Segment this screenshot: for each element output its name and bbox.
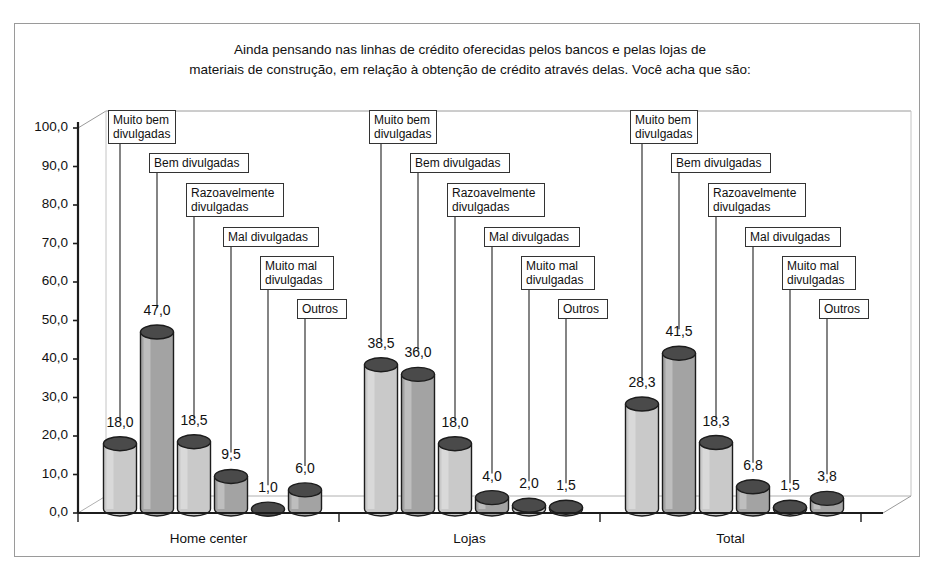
bar-value-label: 1,0	[258, 479, 277, 495]
bar-value-label: 18,0	[441, 414, 468, 430]
bar-total-s0	[626, 397, 659, 516]
y-axis-tick-label: 20,0	[6, 427, 68, 442]
callout-label-mal-divulgadas: Mal divulgadas	[745, 227, 841, 247]
bar-total-s2	[700, 436, 733, 516]
bar-home-center-s3	[215, 469, 248, 516]
bar-cap	[178, 435, 211, 449]
bar-highlight	[368, 368, 375, 509]
bar-value-label: 2,0	[519, 475, 538, 491]
y-axis-tick-label: 80,0	[6, 196, 68, 211]
callout-label-bem-divulgadas: Bem divulgadas	[671, 153, 771, 173]
bar-value-label: 3,8	[817, 468, 836, 484]
callout-label-muito-mal-divulgadas: Muito mal divulgadas	[260, 256, 334, 290]
bar-cap	[626, 397, 659, 411]
callout-label-muito-bem-divulgadas: Muito bem divulgadas	[369, 110, 437, 144]
bar-value-label: 28,3	[628, 374, 655, 390]
y-axis-tick-label: 100,0	[6, 119, 68, 134]
bar-value-label: 18,3	[702, 413, 729, 429]
bar-value-label: 47,0	[143, 302, 170, 318]
bar-value-label: 36,0	[404, 344, 431, 360]
y-axis-tick-label: 50,0	[6, 312, 68, 327]
y-axis-tick-label: 90,0	[6, 158, 68, 173]
y-axis-tick-label: 70,0	[6, 235, 68, 250]
chart-root: Ainda pensando nas linhas de crédito ofe…	[0, 0, 937, 574]
bar-value-label: 9,5	[221, 446, 240, 462]
callout-label-mal-divulgadas: Mal divulgadas	[223, 227, 319, 247]
bar-highlight	[629, 407, 636, 509]
bar-value-label: 1,5	[780, 477, 799, 493]
bar-highlight	[666, 356, 673, 509]
bar-highlight	[181, 445, 188, 509]
bar-cap	[289, 483, 322, 497]
callout-label-mal-divulgadas: Mal divulgadas	[484, 227, 580, 247]
callout-label-outros: Outros	[558, 299, 608, 319]
bar-cap	[700, 436, 733, 450]
callout-label-outros: Outros	[819, 299, 869, 319]
bar-highlight	[405, 377, 412, 509]
plot-back-wall-top	[78, 111, 911, 128]
y-axis-tick-label: 30,0	[6, 389, 68, 404]
bar-highlight	[218, 479, 225, 509]
callout-label-bem-divulgadas: Bem divulgadas	[410, 153, 510, 173]
callout-label-outros: Outros	[297, 299, 347, 319]
bar-cap	[365, 358, 398, 372]
y-axis-tick-label: 10,0	[6, 466, 68, 481]
bar-home-center-s5	[289, 483, 322, 516]
bar-value-label: 6,8	[743, 457, 762, 473]
callout-label-razoavelmente-divulgadas: Razoavelmente divulgadas	[186, 183, 284, 217]
bar-highlight	[442, 447, 449, 509]
bar-cap	[513, 498, 546, 512]
bar-lojas-s1	[402, 367, 435, 516]
bar-value-label: 6,0	[295, 460, 314, 476]
callout-label-razoavelmente-divulgadas: Razoavelmente divulgadas	[708, 183, 806, 217]
bar-home-center-s2	[178, 435, 211, 516]
bar-value-label: 41,5	[665, 323, 692, 339]
bar-highlight	[144, 335, 151, 509]
bar-highlight	[703, 446, 710, 509]
bar-total-s1	[663, 346, 696, 516]
x-axis-category-label-lojas: Lojas	[370, 531, 570, 546]
bar-cap	[439, 437, 472, 451]
bar-cap	[663, 346, 696, 360]
x-axis-category-label-home-center: Home center	[109, 531, 309, 546]
callout-label-bem-divulgadas: Bem divulgadas	[149, 153, 249, 173]
bar-value-label: 18,5	[180, 412, 207, 428]
bar-home-center-s1	[141, 325, 174, 516]
bar-value-label: 38,5	[367, 335, 394, 351]
y-axis-tick-label: 60,0	[6, 273, 68, 288]
bar-value-label: 4,0	[482, 468, 501, 484]
plot-floor-right-diagonal	[883, 496, 911, 513]
bar-value-label: 18,0	[106, 414, 133, 430]
callout-label-muito-bem-divulgadas: Muito bem divulgadas	[630, 110, 698, 144]
bar-home-center-s0	[104, 437, 137, 516]
bar-cap	[737, 480, 770, 494]
bar-total-s3	[737, 480, 770, 516]
bar-cap	[476, 491, 509, 505]
bar-cap	[811, 491, 844, 505]
callout-label-razoavelmente-divulgadas: Razoavelmente divulgadas	[447, 183, 545, 217]
y-axis-tick-label: 40,0	[6, 350, 68, 365]
callout-label-muito-mal-divulgadas: Muito mal divulgadas	[782, 256, 856, 290]
bar-lojas-s0	[365, 358, 398, 516]
bar-cap	[141, 325, 174, 339]
bar-highlight	[107, 447, 114, 509]
y-axis-tick-label: 0,0	[6, 504, 68, 519]
bar-cap	[215, 469, 248, 483]
bar-lojas-s2	[439, 437, 472, 516]
bar-value-label: 1,5	[556, 477, 575, 493]
x-axis-category-label-total: Total	[631, 531, 831, 546]
callout-label-muito-mal-divulgadas: Muito mal divulgadas	[521, 256, 595, 290]
callout-label-muito-bem-divulgadas: Muito bem divulgadas	[108, 110, 176, 144]
bar-cap	[402, 367, 435, 381]
bar-cap	[104, 437, 137, 451]
